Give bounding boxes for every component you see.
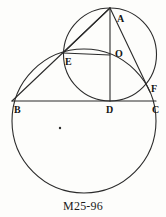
- segment-EO: [63, 53, 110, 55]
- center-dot: [59, 127, 61, 129]
- vertex-label-O: O: [115, 49, 123, 59]
- geometry-figure: A O E B D C F M25-96: [0, 0, 166, 217]
- vertex-label-A: A: [117, 14, 124, 24]
- large-circle: [12, 49, 156, 193]
- vertex-label-E: E: [65, 57, 72, 67]
- vertex-label-C: C: [152, 105, 159, 115]
- geometry-diagram: [0, 0, 166, 217]
- figure-caption: M25-96: [0, 199, 166, 214]
- vertex-label-F: F: [151, 84, 157, 94]
- vertex-label-B: B: [14, 105, 21, 115]
- vertex-label-D: D: [106, 105, 113, 115]
